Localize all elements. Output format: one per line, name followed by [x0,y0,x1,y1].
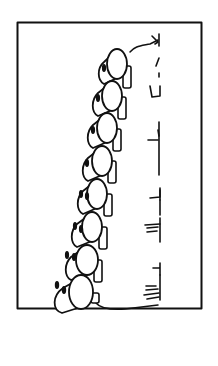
grass-line [144,34,160,300]
caterpillar-drawing [0,0,218,366]
strand [130,40,158,52]
segment-6 [72,212,102,247]
segment-8 [55,275,93,313]
segment-5 [78,179,107,214]
figure-canvas [0,0,218,366]
